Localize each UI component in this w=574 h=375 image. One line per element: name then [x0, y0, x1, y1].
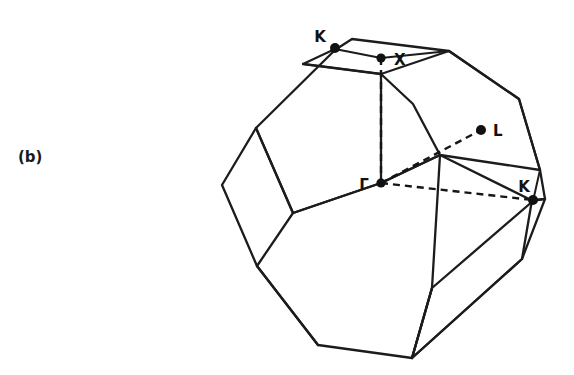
symmetry-dot-K-right: [528, 195, 538, 205]
symmetry-dot-X: [376, 53, 385, 62]
left-square-face: [256, 128, 293, 266]
label-L: L: [493, 122, 503, 140]
brillouin-zone-figure: (b) K: [0, 0, 574, 375]
symmetry-dot-Gamma: [376, 178, 385, 187]
label-Gamma: Γ: [359, 176, 369, 194]
outer-hull-path: [222, 39, 545, 358]
symmetry-dot-K-top: [330, 43, 340, 53]
symmetry-dot-L: [476, 125, 486, 135]
bottom-hexagon-left-edge: [257, 266, 318, 345]
brillouin-zone-drawing: K X L Γ K: [0, 0, 574, 375]
right-sliver-face: [412, 201, 533, 358]
path-gamma-to-k-right: [381, 183, 533, 200]
label-K-top: K: [314, 28, 327, 46]
label-K-right: K: [518, 178, 531, 196]
label-X: X: [394, 51, 406, 69]
top-face-left-short-edge: [303, 49, 335, 64]
